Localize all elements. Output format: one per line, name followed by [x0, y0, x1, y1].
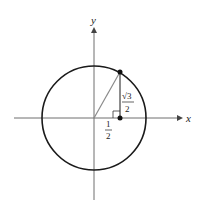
x-coordinate-numerator: 1 — [106, 119, 111, 129]
y-axis-label: y — [90, 14, 96, 26]
y-coordinate-denominator: 2 — [125, 104, 130, 114]
point-on-x-axis — [118, 116, 123, 121]
x-axis-label: x — [185, 112, 191, 124]
unit-circle-diagram: y x √3 2 1 2 — [0, 0, 199, 212]
x-coordinate-denominator: 2 — [106, 131, 111, 141]
point-on-circle — [118, 70, 123, 75]
y-coordinate-numerator: √3 — [122, 91, 132, 101]
